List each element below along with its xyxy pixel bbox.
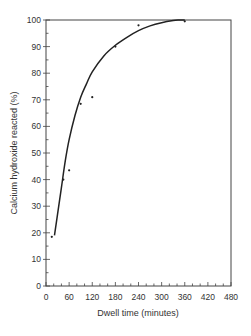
data-point (62, 179, 64, 181)
data-point (68, 169, 70, 171)
x-axis-title: Dwell time (minutes) (97, 308, 179, 318)
data-point (114, 46, 116, 48)
x-tick-label: 240 (131, 292, 145, 302)
x-tick-label: 120 (85, 292, 99, 302)
fitted-curve (54, 20, 184, 235)
y-tick-label: 0 (36, 281, 41, 291)
x-tick-label: 300 (155, 292, 169, 302)
y-tick-label: 100 (27, 15, 41, 25)
y-axis: 0102030405060708090100 (27, 15, 50, 291)
y-tick-label: 10 (32, 254, 42, 264)
plot-border (46, 20, 231, 286)
data-point (184, 20, 186, 22)
data-point (137, 24, 139, 26)
x-tick-label: 60 (64, 292, 74, 302)
y-tick-label: 60 (32, 121, 42, 131)
x-tick-label: 360 (178, 292, 192, 302)
y-tick-label: 50 (32, 148, 42, 158)
y-axis-title: Calcium hydroxide reacted (%) (9, 91, 19, 214)
data-point (51, 236, 53, 238)
x-tick-label: 180 (108, 292, 122, 302)
y-tick-label: 90 (32, 42, 42, 52)
y-tick-label: 80 (32, 68, 42, 78)
chart: 060120180240300360420480 010203040506070… (0, 0, 251, 336)
data-point (80, 103, 82, 105)
x-tick-label: 420 (201, 292, 215, 302)
y-tick-label: 40 (32, 175, 42, 185)
data-point (91, 96, 93, 98)
y-tick-label: 70 (32, 95, 42, 105)
y-tick-label: 30 (32, 201, 42, 211)
x-axis: 060120180240300360420480 (44, 282, 239, 302)
x-tick-label: 0 (44, 292, 49, 302)
x-tick-label: 480 (224, 292, 238, 302)
plot-frame (46, 20, 231, 286)
y-tick-label: 20 (32, 228, 42, 238)
